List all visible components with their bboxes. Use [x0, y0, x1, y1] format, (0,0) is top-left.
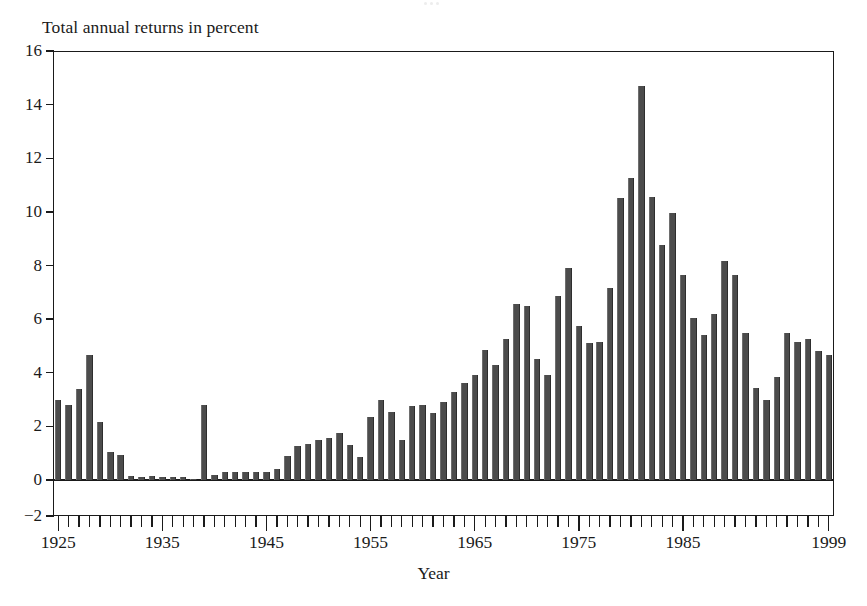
bar — [721, 261, 727, 480]
x-axis-tick — [485, 516, 486, 527]
y-axis-tick — [46, 158, 54, 159]
y-axis-tick-label: 16 — [25, 42, 42, 59]
x-axis-tick — [641, 516, 642, 527]
bar — [117, 455, 123, 480]
y-axis-tick-label: 6 — [34, 310, 43, 327]
bar — [149, 476, 155, 480]
x-axis-tick — [547, 516, 548, 527]
bar — [617, 198, 623, 480]
bar — [826, 355, 832, 480]
bar — [170, 477, 176, 480]
x-axis-tick — [464, 516, 465, 527]
x-axis-tick-label: 1985 — [666, 533, 701, 552]
bar — [628, 178, 634, 480]
x-axis-tick — [786, 516, 787, 527]
bar — [763, 400, 769, 480]
bar — [326, 438, 332, 480]
bar — [399, 440, 405, 480]
x-axis-tick-label: 1965 — [457, 533, 492, 552]
bar — [492, 365, 498, 480]
x-axis-tick — [412, 516, 413, 527]
bar — [211, 475, 217, 480]
x-axis-tick — [162, 516, 163, 531]
bar — [232, 472, 238, 480]
y-axis-tick-label: −2 — [24, 507, 42, 524]
x-axis-tick-label: 1925 — [41, 533, 76, 552]
y-axis-tick — [46, 104, 54, 105]
x-axis-tick — [68, 516, 69, 527]
bar — [638, 86, 644, 480]
x-axis-tick — [682, 516, 683, 531]
x-axis-tick — [672, 516, 673, 527]
bar — [805, 339, 811, 480]
bar — [97, 422, 103, 480]
bar — [596, 342, 602, 480]
x-axis-tick — [578, 516, 579, 531]
bar — [76, 389, 82, 480]
bar — [774, 377, 780, 480]
x-axis-tick — [432, 516, 433, 527]
bar — [815, 351, 821, 480]
bar — [555, 296, 561, 480]
x-axis-tick — [120, 516, 121, 527]
y-axis-tick-label: 4 — [34, 364, 43, 381]
bar — [180, 477, 186, 480]
x-axis-tick-label: 1975 — [561, 533, 596, 552]
x-axis-tick — [620, 516, 621, 527]
bar — [576, 326, 582, 480]
x-axis-tick — [630, 516, 631, 527]
x-axis-tick — [828, 516, 829, 531]
x-axis-tick — [714, 516, 715, 527]
bar — [482, 350, 488, 480]
y-axis-tick-label: 10 — [25, 203, 42, 220]
bar — [513, 304, 519, 480]
y-axis-tick — [46, 265, 54, 266]
bar — [347, 445, 353, 480]
x-axis-tick — [568, 516, 569, 527]
bar — [659, 245, 665, 480]
x-axis-tick — [401, 516, 402, 527]
x-axis-tick — [318, 516, 319, 527]
bar — [690, 318, 696, 480]
chart-figure: Total annual returns in percent 16141210… — [0, 0, 867, 606]
y-axis-tick-label: 12 — [25, 149, 42, 166]
x-axis-tick — [745, 516, 746, 527]
x-axis-tick — [255, 516, 256, 527]
bar — [263, 472, 269, 480]
bar — [305, 444, 311, 480]
bar — [784, 333, 790, 480]
bar — [732, 275, 738, 480]
bar — [86, 355, 92, 480]
bar — [65, 405, 71, 480]
bar — [430, 413, 436, 480]
x-axis-tick — [537, 516, 538, 527]
x-axis-tick — [151, 516, 152, 527]
x-axis-tick — [516, 516, 517, 527]
bar — [159, 477, 165, 480]
plot-frame-lower — [53, 480, 834, 516]
bar — [201, 405, 207, 480]
y-axis-tick-label: 0 — [34, 471, 43, 488]
y-axis-tick — [46, 426, 54, 427]
x-axis-tick — [599, 516, 600, 527]
bar — [388, 412, 394, 480]
x-axis-tick — [662, 516, 663, 527]
bar — [409, 406, 415, 480]
bar — [138, 477, 144, 480]
bar — [419, 405, 425, 480]
x-axis-tick — [453, 516, 454, 527]
x-axis-tick — [380, 516, 381, 527]
bar — [55, 400, 61, 480]
bar — [440, 402, 446, 480]
x-axis-tick — [99, 516, 100, 527]
bar — [524, 306, 530, 480]
x-axis-title: Year — [0, 563, 867, 583]
x-axis-tick — [734, 516, 735, 527]
x-axis-tick — [360, 516, 361, 527]
bar — [461, 383, 467, 480]
y-axis-tick-label: 8 — [34, 257, 43, 274]
x-axis-tick-label: 1945 — [249, 533, 284, 552]
x-axis-tick — [797, 516, 798, 527]
x-axis-tick — [193, 516, 194, 527]
x-axis-tick — [557, 516, 558, 527]
